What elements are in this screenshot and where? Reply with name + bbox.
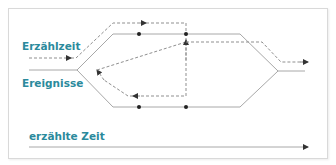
- event-dot: [184, 32, 188, 36]
- event-dot: [137, 32, 141, 36]
- narration-exit-path: [186, 42, 303, 62]
- events-upper-branch: [77, 34, 305, 71]
- narration-left-arrow: [97, 70, 104, 80]
- event-dot: [137, 105, 141, 109]
- narration-lower-diagonal: [104, 80, 133, 96]
- narration-up-diagonal: [97, 42, 186, 70]
- event-dot: [184, 105, 188, 109]
- narrative-time-diagram: [0, 0, 336, 165]
- narration-upper-start: [71, 23, 140, 58]
- events-lower-branch: [77, 70, 278, 107]
